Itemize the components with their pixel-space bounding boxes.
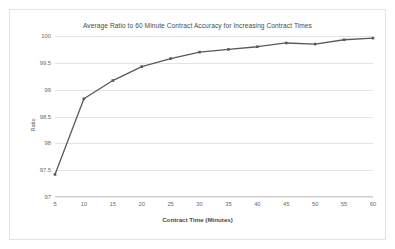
data-series-line	[55, 36, 373, 197]
y-axis-tick-label: 98.5	[40, 114, 51, 120]
x-axis-tick-label: 55	[341, 201, 347, 207]
x-axis-tick-label: 15	[110, 201, 116, 207]
data-point-marker	[83, 97, 86, 100]
x-axis-tick-label: 50	[312, 201, 318, 207]
y-axis-title: Ratio	[30, 118, 36, 131]
series-polyline	[55, 38, 373, 174]
x-axis-tick-label: 20	[138, 201, 144, 207]
data-point-marker	[372, 37, 375, 40]
data-point-marker	[54, 173, 57, 176]
y-axis-tick-label: 97	[45, 194, 51, 200]
y-axis-tick-label: 98	[45, 140, 51, 146]
x-axis-tick-label: 45	[283, 201, 289, 207]
y-axis-tick-label: 99	[45, 87, 51, 93]
x-axis-tick-label: 30	[196, 201, 202, 207]
data-point-marker	[256, 45, 259, 48]
data-point-marker	[314, 43, 317, 46]
y-axis-tick-label: 100	[41, 33, 51, 39]
plot-area: 9797.59898.59999.5100 510152025303540455…	[55, 36, 373, 197]
data-point-marker	[198, 51, 201, 54]
x-axis-tick-label: 35	[225, 201, 231, 207]
data-point-marker	[140, 65, 143, 68]
gridline	[55, 197, 373, 198]
y-axis-tick-label: 97.5	[40, 167, 51, 173]
data-point-marker	[112, 79, 115, 82]
data-point-marker	[227, 48, 230, 51]
x-axis-tick-label: 60	[370, 201, 376, 207]
data-point-marker	[343, 38, 346, 41]
y-axis-tick-label: 99.5	[40, 60, 51, 66]
x-axis-tick-label: 10	[81, 201, 87, 207]
chart-frame: Average Ratio to 60 Minute Contract Accu…	[9, 9, 386, 240]
x-axis-tick-label: 40	[254, 201, 260, 207]
data-point-marker	[285, 42, 288, 45]
data-point-marker	[169, 57, 172, 60]
x-axis-tick-label: 5	[53, 201, 56, 207]
x-axis-title: Contract Time (Minutes)	[10, 216, 385, 223]
x-axis-tick-label: 25	[167, 201, 173, 207]
chart-title: Average Ratio to 60 Minute Contract Accu…	[10, 22, 385, 29]
